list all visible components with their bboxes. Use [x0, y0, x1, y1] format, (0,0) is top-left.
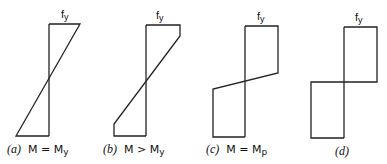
caption-b: (b) M > My — [103, 142, 165, 157]
fy-label-b: fy — [156, 9, 164, 23]
fy-label-d: fy — [355, 11, 363, 25]
fy-label-a: fy — [61, 8, 69, 22]
fy-label-c: fy — [257, 10, 265, 24]
stress-distribution-figure: fy fy fy fy (a) M = My (b) M > My (c) M … — [0, 0, 387, 164]
stress-profile-a — [16, 24, 80, 136]
caption-c: (c) M = Mp — [206, 142, 267, 157]
caption-a: (a) M = My — [7, 142, 69, 157]
stress-profile-b — [114, 25, 180, 136]
stress-diagrams — [0, 0, 387, 164]
caption-d: (d) — [335, 144, 349, 159]
